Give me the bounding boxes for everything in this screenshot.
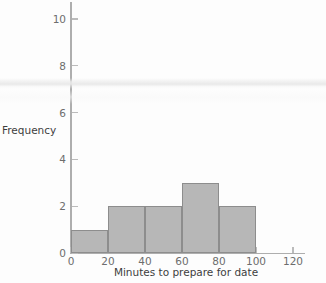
histogram-bar xyxy=(219,206,256,253)
y-tick-label: 8 xyxy=(44,61,66,71)
y-tick-label: 6 xyxy=(44,108,66,118)
y-tick-label: 4 xyxy=(44,154,66,164)
x-tick-mark xyxy=(292,247,293,253)
plot-area: 0246810 020406080100120 xyxy=(0,0,326,283)
x-axis-title: Minutes to prepare for date xyxy=(0,266,326,278)
histogram-bar xyxy=(108,206,145,253)
histogram-bar xyxy=(145,206,182,253)
histogram-bar xyxy=(71,230,108,253)
y-tick-label: 2 xyxy=(44,201,66,211)
y-tick-mark xyxy=(72,206,78,207)
y-axis-line xyxy=(70,2,72,254)
y-tick-mark xyxy=(72,18,78,19)
histogram-bar xyxy=(182,183,219,253)
y-axis-title: Frequency xyxy=(2,124,56,136)
y-tick-mark xyxy=(72,65,78,66)
histogram-chart: 0246810 020406080100120 Frequency Minute… xyxy=(0,0,326,283)
y-tick-mark xyxy=(72,159,78,160)
y-tick-mark xyxy=(72,112,78,113)
y-tick-label: 10 xyxy=(44,14,66,24)
